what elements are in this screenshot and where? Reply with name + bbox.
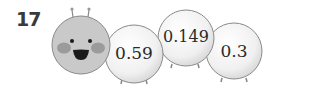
eye-right-icon <box>88 39 92 43</box>
antenna-right-icon <box>88 10 89 17</box>
antenna-left-icon <box>72 10 73 17</box>
segment-value-3: 0.3 <box>204 41 264 61</box>
segment-value-1: 0.59 <box>104 43 164 63</box>
cheek-left-icon <box>57 43 71 54</box>
eye-left-icon <box>70 39 74 43</box>
caterpillar-head <box>52 7 110 74</box>
cheek-right-icon <box>91 43 105 54</box>
